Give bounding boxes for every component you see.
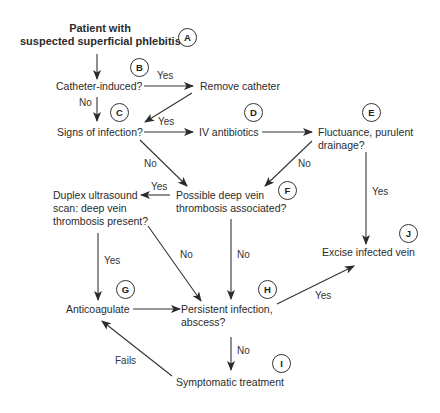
node-possible-dvt-line1: Possible deep vein	[176, 189, 286, 202]
node-excise: Excise infected vein	[322, 246, 415, 259]
node-duplex: Duplex ultrasound scan: deep vein thromb…	[53, 189, 148, 228]
node-start-line2: suspected superficial phlebitis	[20, 35, 180, 48]
edge-duplex-no	[148, 226, 201, 301]
node-persistent: Persistent infection, abscess?	[181, 303, 273, 329]
node-symptomatic: Symptomatic treatment	[176, 376, 284, 389]
edge-label-possible-dvt-yes: Yes	[151, 181, 167, 193]
node-fluctuance-line2: drainage?	[318, 139, 413, 152]
node-duplex-line3: thrombosis present?	[53, 215, 148, 228]
node-start: Patient with suspected superficial phleb…	[20, 22, 180, 48]
node-duplex-line1: Duplex ultrasound	[53, 189, 148, 202]
edge-label-infection-no: No	[144, 158, 157, 170]
edge-label-duplex-yes: Yes	[104, 255, 120, 267]
edge-label-duplex-no: No	[180, 249, 193, 261]
node-fluctuance: Fluctuance, purulent drainage?	[318, 126, 413, 152]
node-fluctuance-line1: Fluctuance, purulent	[318, 126, 413, 139]
node-persistent-line1: Persistent infection,	[181, 303, 273, 316]
badge-b: B	[130, 58, 149, 77]
node-iv-antibiotics: IV antibiotics	[199, 126, 259, 139]
edge-label-fluctuance-yes: Yes	[372, 186, 388, 198]
edge-symptomatic-fails	[102, 321, 172, 376]
badge-i: I	[272, 354, 291, 373]
badge-j: J	[399, 224, 418, 243]
node-start-line1: Patient with	[20, 22, 180, 35]
node-infection: Signs of infection?	[57, 126, 143, 139]
node-duplex-line2: scan: deep vein	[53, 202, 148, 215]
edge-label-persistent-no: No	[237, 345, 250, 357]
badge-a: A	[178, 28, 197, 47]
node-remove-catheter: Remove catheter	[200, 80, 280, 93]
node-anticoagulate: Anticoagulate	[66, 303, 130, 316]
edge-label-fluctuance-no: No	[298, 158, 311, 170]
badge-f: F	[278, 181, 297, 200]
node-persistent-line2: abscess?	[181, 316, 273, 329]
edge-label-infection-yes: Yes	[158, 116, 174, 128]
badge-g: G	[116, 280, 135, 299]
node-possible-dvt-line2: thrombosis associated?	[176, 202, 286, 215]
node-possible-dvt: Possible deep vein thrombosis associated…	[176, 189, 286, 215]
badge-h: H	[258, 280, 277, 299]
badge-c: C	[110, 103, 129, 122]
badge-e: E	[362, 103, 381, 122]
edge-label-symptomatic-fails: Fails	[115, 355, 136, 367]
edge-label-catheter-no: No	[79, 97, 92, 109]
node-catheter: Catheter-induced?	[56, 80, 142, 93]
badge-d: D	[244, 103, 263, 122]
edge-label-catheter-yes: Yes	[157, 70, 173, 82]
edge-label-possible-dvt-no: No	[237, 249, 250, 261]
edge-label-persistent-yes: Yes	[315, 290, 331, 302]
